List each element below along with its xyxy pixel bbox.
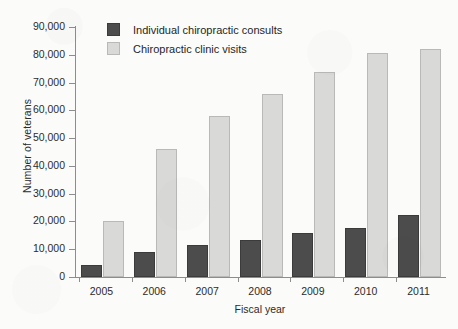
bar-2010-series-0 — [345, 228, 366, 277]
bar-2010-series-1 — [367, 53, 388, 277]
y-axis-tick-label: 90,000 — [33, 20, 65, 32]
x-axis-tick-label: 2007 — [185, 285, 229, 297]
x-axis-tick-label: 2010 — [344, 285, 388, 297]
bar-2006-series-1 — [156, 149, 177, 277]
x-axis-tick-label: 2011 — [397, 285, 441, 297]
legend-item: Individual chiropractic consults — [107, 20, 282, 39]
x-axis-tick-mark — [238, 277, 239, 282]
x-axis-tick-mark — [290, 277, 291, 282]
x-axis-tick-mark — [396, 277, 397, 282]
bar-2005-series-0 — [81, 265, 102, 277]
bar-2009-series-0 — [292, 233, 313, 277]
y-axis-tick: 30,000 — [0, 194, 75, 195]
y-axis-tick-label: 70,000 — [33, 76, 65, 88]
legend-label: Individual chiropractic consults — [133, 24, 282, 36]
y-axis-tick: 40,000 — [0, 166, 75, 167]
y-axis-tick: 0 — [0, 277, 75, 278]
y-axis-tick: 80,000 — [0, 55, 75, 56]
y-axis-tick-label: 10,000 — [33, 242, 65, 254]
y-axis-tick: 70,000 — [0, 83, 75, 84]
chart-legend: Individual chiropractic consultsChiropra… — [107, 20, 282, 58]
y-axis-tick-label: 80,000 — [33, 48, 65, 60]
plot-area — [75, 27, 445, 277]
y-axis-tick: 10,000 — [0, 249, 75, 250]
x-axis-tick-mark — [79, 277, 80, 282]
y-axis-tick-label: 20,000 — [33, 214, 65, 226]
x-axis-tick-label: 2006 — [132, 285, 176, 297]
x-axis-line — [75, 277, 446, 278]
bar-2011-series-1 — [420, 49, 441, 277]
legend-swatch-icon — [107, 42, 120, 55]
bar-2009-series-1 — [314, 72, 335, 277]
bar-2007-series-0 — [187, 245, 208, 277]
y-axis-tick: 90,000 — [0, 27, 75, 28]
bar-2007-series-1 — [209, 116, 230, 277]
y-axis-tick: 50,000 — [0, 138, 75, 139]
y-axis-tick-label: 0 — [59, 270, 65, 282]
x-axis-tick-label: 2008 — [238, 285, 282, 297]
bar-2006-series-0 — [134, 252, 155, 277]
bar-2008-series-1 — [262, 94, 283, 277]
y-axis-tick: 60,000 — [0, 110, 75, 111]
y-axis-tick-label: 30,000 — [33, 187, 65, 199]
y-axis-tick-label: 60,000 — [33, 103, 65, 115]
y-axis-tick-label: 50,000 — [33, 131, 65, 143]
x-axis-tick-mark — [343, 277, 344, 282]
x-axis-tick-label: 2005 — [79, 285, 123, 297]
bar-2008-series-0 — [240, 240, 261, 277]
x-axis-tick-label: 2009 — [291, 285, 335, 297]
x-axis-tick-mark — [132, 277, 133, 282]
bar-2011-series-0 — [398, 215, 419, 277]
x-axis-title: Fiscal year — [75, 303, 445, 315]
bar-chart-figure: Number of veterans Fiscal year 010,00020… — [0, 0, 458, 329]
legend-swatch-icon — [107, 23, 120, 36]
legend-label: Chiropractic clinic visits — [133, 43, 247, 55]
y-axis-tick-mark — [69, 277, 75, 278]
y-axis-tick: 20,000 — [0, 221, 75, 222]
legend-item: Chiropractic clinic visits — [107, 39, 282, 58]
y-axis-tick-label: 40,000 — [33, 159, 65, 171]
bar-2005-series-1 — [103, 221, 124, 277]
x-axis-tick-mark — [185, 277, 186, 282]
